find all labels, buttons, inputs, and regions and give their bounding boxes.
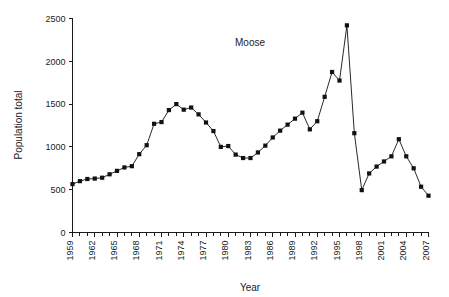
data-point-marker — [115, 169, 119, 173]
data-point-marker — [389, 154, 393, 158]
y-tick-label: 1500 — [45, 99, 65, 109]
data-point-marker — [130, 164, 134, 168]
data-point-marker — [241, 156, 245, 160]
x-tick-label: 2001 — [376, 241, 386, 261]
data-point-marker — [182, 108, 186, 112]
population-line-chart: 05001000150020002500 1959196219651968197… — [0, 0, 449, 297]
y-axis-ticks: 05001000150020002500 — [45, 14, 72, 238]
data-point-marker — [404, 154, 408, 158]
data-point-marker — [219, 145, 223, 149]
data-point-marker — [226, 144, 230, 148]
y-tick-label: 2500 — [45, 14, 65, 24]
data-point-marker — [300, 111, 304, 115]
y-tick-label: 0 — [60, 228, 65, 238]
x-tick-label: 1965 — [109, 241, 119, 261]
data-point-marker — [412, 166, 416, 170]
data-point-marker — [189, 105, 193, 109]
data-point-marker — [196, 112, 200, 116]
data-point-marker — [345, 23, 349, 27]
x-tick-label: 1959 — [65, 241, 75, 261]
data-point-marker — [256, 150, 260, 154]
data-point-marker — [278, 129, 282, 133]
data-point-marker — [330, 70, 334, 74]
x-tick-label: 1983 — [243, 241, 253, 261]
x-tick-label: 2004 — [398, 241, 408, 261]
x-tick-label: 1962 — [87, 241, 97, 261]
data-point-marker — [159, 120, 163, 124]
data-point-marker — [211, 129, 215, 133]
chart-figure: 05001000150020002500 1959196219651968197… — [0, 0, 449, 297]
x-tick-label: 1992 — [309, 241, 319, 261]
data-point-marker — [234, 153, 238, 157]
x-axis-ticks: 1959196219651968197119741977198019831986… — [65, 233, 431, 261]
data-point-marker — [308, 127, 312, 131]
data-point-marker — [323, 95, 327, 99]
data-point-marker — [167, 108, 171, 112]
data-point-marker — [419, 185, 423, 189]
data-point-marker — [263, 144, 267, 148]
x-tick-label: 1974 — [176, 241, 186, 261]
data-point-marker — [271, 135, 275, 139]
data-point-marker — [285, 123, 289, 127]
x-tick-label: 1998 — [354, 241, 364, 261]
data-point-marker — [248, 156, 252, 160]
data-point-marker — [78, 179, 82, 183]
data-point-marker — [174, 102, 178, 106]
data-point-marker — [315, 119, 319, 123]
data-point-marker — [137, 152, 141, 156]
data-point-marker — [352, 131, 356, 135]
data-point-marker — [293, 117, 297, 121]
x-tick-label: 1986 — [265, 241, 275, 261]
data-point-marker — [152, 122, 156, 126]
x-tick-label: 1977 — [198, 241, 208, 261]
x-tick-label: 1989 — [287, 241, 297, 261]
y-tick-label: 2000 — [45, 57, 65, 67]
data-point-marker — [382, 159, 386, 163]
data-point-marker — [122, 165, 126, 169]
x-tick-label: 1971 — [154, 241, 164, 261]
data-point-marker — [100, 176, 104, 180]
x-tick-label: 1995 — [332, 241, 342, 261]
x-axis-label: Year — [240, 282, 261, 293]
data-point-marker — [374, 164, 378, 168]
x-tick-label: 1980 — [220, 241, 230, 261]
chart-axes — [73, 19, 429, 233]
data-point-marker — [204, 120, 208, 124]
y-tick-label: 1000 — [45, 142, 65, 152]
data-point-marker — [397, 137, 401, 141]
data-point-marker — [426, 194, 430, 198]
data-marker-group — [70, 23, 430, 198]
data-point-marker — [367, 171, 371, 175]
data-point-marker — [145, 143, 149, 147]
y-axis-label: Population total — [13, 91, 24, 160]
y-tick-label: 500 — [50, 185, 65, 195]
data-point-marker — [107, 172, 111, 176]
data-point-marker — [85, 177, 89, 181]
x-tick-label: 2007 — [421, 241, 431, 261]
data-line-group — [73, 25, 429, 195]
data-line — [73, 25, 429, 195]
chart-title: Moose — [235, 37, 265, 48]
x-tick-label: 1968 — [131, 241, 141, 261]
axis-spines — [73, 19, 429, 233]
data-point-marker — [337, 78, 341, 82]
data-point-marker — [360, 188, 364, 192]
data-point-marker — [70, 182, 74, 186]
data-point-marker — [93, 176, 97, 180]
